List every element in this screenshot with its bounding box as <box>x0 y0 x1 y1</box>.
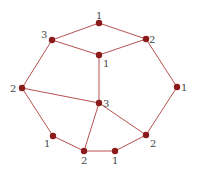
node-label: 1 <box>181 82 187 93</box>
graph-edge <box>22 88 53 136</box>
node-label: 3 <box>103 98 109 109</box>
node-label: 1 <box>44 138 50 149</box>
graph-node <box>19 85 25 91</box>
graph-edge <box>22 88 99 103</box>
graph-edge <box>115 135 146 151</box>
node-label: 2 <box>81 155 87 166</box>
graph-node <box>112 148 118 154</box>
node-label: 3 <box>41 29 47 40</box>
graph-diagram: 13212131221 <box>0 0 201 173</box>
graph-edge <box>146 87 177 135</box>
graph-node <box>81 148 87 154</box>
graph-edge <box>52 23 99 40</box>
graph-node <box>174 84 180 90</box>
node-label: 1 <box>112 155 118 166</box>
graph-edge <box>84 103 99 151</box>
graph-edge <box>52 40 99 55</box>
node-label: 2 <box>149 34 155 45</box>
node-label: 2 <box>10 83 16 94</box>
graph-edge <box>99 23 146 39</box>
graph-node <box>96 52 102 58</box>
node-label: 1 <box>103 58 109 69</box>
graph-edge <box>53 136 84 151</box>
node-label: 2 <box>150 138 156 149</box>
graph-node <box>49 37 55 43</box>
graph-node <box>50 133 56 139</box>
graph-canvas: 13212131221 <box>0 0 201 173</box>
graph-edge <box>146 39 177 87</box>
graph-node <box>143 132 149 138</box>
graph-node <box>96 100 102 106</box>
node-label: 1 <box>96 10 102 21</box>
graph-edge <box>22 40 52 88</box>
graph-edge <box>99 39 146 55</box>
